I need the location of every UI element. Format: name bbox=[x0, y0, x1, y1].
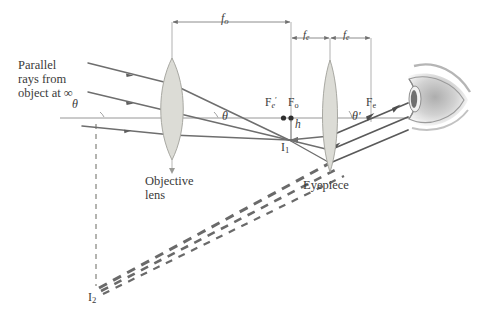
emergent-ray-2 bbox=[330, 117, 408, 150]
angle-theta-mid-arc bbox=[214, 112, 218, 118]
source-label-line2: rays from bbox=[18, 72, 73, 86]
dimension-label-fe-left: fe bbox=[303, 28, 310, 43]
virtual-ray-1 bbox=[99, 163, 330, 288]
incoming-ray-arrowheads bbox=[124, 74, 134, 134]
objective-lens-label-line2: lens bbox=[145, 188, 194, 202]
converging-ray-top bbox=[172, 84, 289, 140]
angle-theta-out-label: θ′ bbox=[352, 110, 361, 123]
source-label-line1: Parallel bbox=[18, 58, 73, 72]
focal-point-Fo-label: Fo bbox=[288, 96, 299, 110]
converging-rays bbox=[172, 84, 289, 140]
eyepiece-label: Eyepiece bbox=[303, 178, 349, 192]
focal-point-Fo-dot bbox=[288, 115, 293, 120]
focal-point-Fe-label: Fe bbox=[366, 96, 376, 110]
dimension-label-fo: fo bbox=[221, 12, 229, 27]
ray-diagram-svg bbox=[0, 0, 483, 321]
virtual-ray-3 bbox=[103, 176, 344, 294]
virtual-ray-2 bbox=[101, 169, 337, 291]
incoming-ray-mid bbox=[88, 92, 172, 112]
focal-point-Fe-prime-label: Fe′ bbox=[265, 96, 277, 110]
angle-theta-in-label: θ bbox=[72, 98, 78, 111]
source-label: Parallel rays from object at ∞ bbox=[18, 58, 73, 100]
image-I1-label: I1 bbox=[281, 141, 289, 156]
focal-point-Fe-prime-dot bbox=[281, 115, 286, 120]
eyepiece-lens bbox=[323, 60, 338, 172]
emergent-rays bbox=[330, 103, 408, 163]
angle-theta-mid-label: θ bbox=[222, 110, 228, 123]
objective-lens-label: Objective lens bbox=[145, 174, 194, 202]
dimension-label-fe-right: fe bbox=[343, 28, 350, 43]
figure-canvas: fo fe fe Parallel rays from object at ∞ … bbox=[0, 0, 483, 321]
incoming-ray-top bbox=[88, 63, 172, 84]
angle-theta-in-arc bbox=[100, 112, 104, 117]
eye-illustration bbox=[408, 64, 470, 130]
objective-lens-label-line1: Objective bbox=[145, 174, 194, 188]
image-I2-label: I2 bbox=[88, 291, 96, 306]
emergent-ray-3 bbox=[330, 130, 408, 163]
objective-lens bbox=[161, 58, 184, 160]
source-label-line3: object at ∞ bbox=[18, 86, 73, 100]
image-height-label: h bbox=[295, 118, 301, 131]
